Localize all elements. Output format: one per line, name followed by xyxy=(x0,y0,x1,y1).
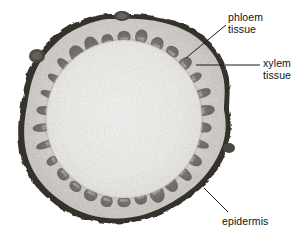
epidermis-label-line1: epidermis xyxy=(222,216,268,228)
phloem-label-line1: phloem xyxy=(228,12,263,24)
stem-cross-section-image xyxy=(0,0,306,241)
epidermis-label: epidermis xyxy=(222,216,268,228)
xylem-tissue-label: xylem tissue xyxy=(263,58,291,81)
phloem-tissue-label: phloem tissue xyxy=(228,12,263,35)
phloem-label-line2: tissue xyxy=(228,24,263,36)
xylem-label-line2: tissue xyxy=(263,70,291,82)
xylem-label-line1: xylem xyxy=(263,58,291,70)
micrograph-figure: phloem tissue xylem tissue epidermis xyxy=(0,0,306,241)
